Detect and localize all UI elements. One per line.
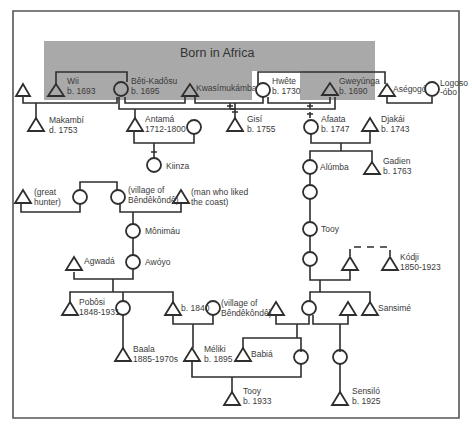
female-circle-icon (147, 158, 161, 172)
male-triangle-icon (235, 348, 251, 361)
label-hunter: (great (34, 187, 57, 197)
female-circle-icon (302, 301, 316, 315)
female-circle-icon (303, 252, 317, 266)
label-babia: Babiá (251, 349, 273, 359)
male-triangle-icon (165, 302, 181, 315)
label-bende: (village of (128, 185, 165, 195)
label-antama-dates: 1712-1800 (145, 124, 186, 134)
female-circle-icon (333, 350, 347, 364)
label-coast: (man who liked (191, 187, 248, 197)
label-makambi: Makambí (49, 115, 85, 125)
male-triangle-icon (16, 84, 30, 96)
sibling-line (310, 151, 372, 162)
female-circle-icon (187, 120, 201, 134)
label-gweyunga-birth: b. 1690 (339, 86, 368, 96)
label-hunter-2: hunter) (34, 197, 61, 207)
label-baala: Baala (133, 344, 155, 354)
female-circle-icon (303, 222, 317, 236)
label-wii-birth: b. 1693 (67, 86, 96, 96)
male-triangle-icon (342, 257, 358, 270)
label-alumba: Alúmba (320, 162, 349, 172)
label-poboosi-dates: 1848-1931 (79, 307, 120, 317)
female-circle-icon (294, 350, 308, 364)
label-bende-4: Bêndêkôndê) (221, 308, 272, 318)
female-circle-icon (126, 255, 140, 269)
label-meliki: Méliki (204, 344, 226, 354)
label-sansime: Sansimé (378, 303, 411, 313)
label-monimau: Mônimáu (145, 226, 180, 236)
label-wii: Wii (67, 76, 79, 86)
label-gadien: Gadien (383, 156, 411, 166)
label-bende-2: Bêndêkôndê) (128, 195, 179, 205)
label-gadien-birth: b. 1763 (383, 166, 412, 176)
label-kiinza: Kiinza (166, 161, 189, 171)
male-triangle-icon (227, 118, 243, 131)
label-antama: Antamá (145, 114, 175, 124)
female-circle-icon (303, 185, 317, 199)
label-afaata-birth: b. 1747 (321, 124, 350, 134)
marriage-line (276, 315, 309, 324)
label-gweyunga: Gweyúnga (339, 76, 380, 86)
marriage-line (173, 315, 213, 324)
label-kodji-dates: 1850-1923 (400, 262, 441, 272)
female-circle-icon (425, 82, 439, 96)
male-triangle-icon (127, 118, 143, 131)
female-circle-icon (111, 190, 125, 204)
sibling-line (310, 292, 370, 302)
region-title: Born in Africa (180, 46, 254, 60)
label-gisi-birth: b. 1755 (247, 124, 276, 134)
person-labels: Wii b. 1693 Bêti-Kadôsu b. 1695 Kwasímuk… (34, 76, 468, 406)
label-awoyo: Awóyo (145, 257, 171, 267)
label-gisi: Gisí (247, 114, 263, 124)
marriage-line (313, 315, 348, 324)
male-triangle-icon (62, 302, 78, 315)
female-circle-icon (126, 224, 140, 238)
label-djakai: Djakái (381, 114, 405, 124)
female-circle-icon (256, 83, 270, 97)
label-beti: Bêti-Kadôsu (131, 76, 178, 86)
sibling-line-uncertain (350, 247, 390, 256)
sibling-line (80, 182, 117, 190)
label-b1840: b. 1840 (181, 303, 210, 313)
label-sensilo: Sensiló (352, 386, 380, 396)
male-triangle-icon (364, 162, 380, 174)
male-triangle-icon (340, 302, 356, 315)
descent-line (307, 112, 313, 118)
label-baala-dates: 1885-1970s (133, 354, 178, 364)
label-asegogo: Aségogó (393, 84, 427, 94)
male-triangle-icon (28, 118, 44, 131)
label-tooy-f: Tooy (321, 224, 340, 234)
label-bende-3: (village of (221, 298, 258, 308)
label-coast-2: the coast) (191, 197, 228, 207)
male-triangle-icon (66, 257, 82, 270)
male-triangle-icon (115, 348, 131, 361)
label-hwete-birth: b. 1730 (272, 86, 301, 96)
male-triangle-icon (332, 392, 348, 405)
label-tooy-m: Tooy (243, 386, 262, 396)
marriage-line (74, 268, 133, 279)
descent-line (151, 143, 157, 158)
label-hwete: Hwête (272, 76, 296, 86)
male-triangle-icon (362, 302, 378, 315)
label-logoso-2: -óbo (440, 87, 457, 97)
label-sensilo-birth: b. 1925 (352, 396, 381, 406)
label-tooy-m-birth: b. 1933 (243, 396, 272, 406)
label-agwada: Agwadá (84, 256, 115, 266)
label-poboosi: Pobôsi (79, 297, 105, 307)
label-meliki-birth: b. 1895 (204, 354, 233, 364)
male-triangle-icon (382, 257, 398, 270)
descent-line (227, 103, 233, 109)
label-djakai-birth: b. 1743 (381, 124, 410, 134)
female-circle-icon (303, 160, 317, 174)
male-triangle-icon (184, 348, 200, 361)
male-triangle-icon (362, 118, 378, 131)
male-triangle-icon (224, 392, 240, 405)
label-afaata: Afaata (321, 114, 346, 124)
marriage-line (387, 97, 432, 103)
label-kwasi: Kwasímukámba (196, 83, 257, 93)
female-circle-icon (304, 120, 318, 134)
label-beti-birth: b. 1695 (131, 86, 160, 96)
male-triangle-icon (15, 190, 31, 203)
genealogy-diagram: Born in Africa (0, 0, 472, 445)
descent-line (307, 103, 313, 109)
